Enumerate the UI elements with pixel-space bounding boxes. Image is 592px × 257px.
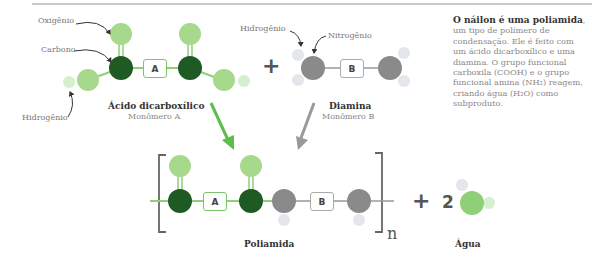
monomer-b-subtitle: Monômero B [322, 112, 374, 121]
label-carbono: Carbono [41, 45, 76, 54]
plus-sign-2: + [412, 188, 430, 213]
oxygen-atom [179, 23, 201, 45]
polyamide-molecule [150, 155, 394, 226]
label-hidrogenio-b: Hidrogênio [240, 24, 286, 33]
polyamide-title: Poliamida [244, 239, 294, 249]
nitrogen-atom [378, 56, 402, 80]
arrow-gray-icon [296, 136, 308, 150]
monomer-a-box: A [143, 59, 167, 78]
monomer-a-title: Ácido dicarboxílico [108, 101, 204, 111]
side-description: O náilon é uma poliamida, um tipo de pol… [453, 15, 588, 109]
monomer-a-subtitle: Monômero A [128, 112, 180, 121]
label-hidrogenio-a: Hidrogênio [22, 113, 68, 122]
oxygen-atom [213, 69, 235, 91]
oxygen-atom [110, 23, 132, 45]
water-molecule [456, 179, 495, 215]
hydrogen-atom [63, 76, 75, 88]
polymer-b-box: B [310, 192, 334, 211]
monomer-a-molecule [63, 23, 250, 91]
hydrogen-atom [398, 75, 410, 87]
side-rest: , um tipo de polímero de condensação. El… [453, 15, 585, 108]
oxygen-atom [77, 69, 99, 91]
hydrogen-atom [238, 75, 250, 87]
hydrogen-atom [292, 74, 304, 86]
carbon-atom [109, 56, 133, 80]
monomer-b-box: B [340, 59, 364, 78]
left-bracket [159, 155, 166, 232]
repeat-n: n [387, 224, 397, 243]
hydrogen-atom [292, 49, 304, 61]
right-bracket [375, 153, 382, 232]
side-bold: O náilon é uma poliamida [453, 15, 583, 25]
carbon-atom [178, 56, 202, 80]
label-nitrogenio: Nitrogênio [328, 31, 372, 40]
label-oxigenio: Oxigênio [38, 16, 74, 25]
water-coefficient: 2 [442, 192, 454, 212]
nitrogen-atom [301, 56, 325, 80]
monomer-b-title: Diamina [329, 101, 371, 111]
plus-sign: + [262, 53, 280, 78]
polymer-a-box: A [203, 192, 227, 211]
water-title: Água [455, 239, 481, 249]
hydrogen-atom [398, 47, 410, 59]
